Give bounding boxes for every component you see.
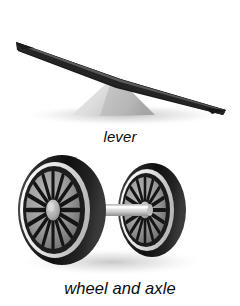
simple-machines-figure: lever — [0, 0, 240, 306]
wheel-and-axle-caption: wheel and axle — [0, 278, 240, 298]
axle-end-cap — [147, 204, 153, 216]
lever-figure-group: lever — [0, 0, 240, 150]
wheel-and-axle-illustration — [0, 150, 240, 278]
wheel-and-axle-figure-group: wheel and axle — [0, 150, 240, 306]
lever-illustration — [0, 0, 240, 126]
wheel-left-hub-highlight — [48, 203, 54, 212]
wheel-left — [18, 155, 106, 265]
lever-caption: lever — [0, 128, 240, 146]
